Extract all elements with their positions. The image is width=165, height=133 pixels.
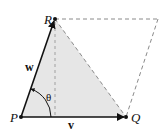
label-q: Q	[131, 110, 141, 125]
label-theta: θ	[46, 91, 51, 103]
dashed-edge-s-q	[126, 19, 158, 117]
label-r: R	[43, 12, 52, 27]
point-r-dot	[53, 17, 57, 21]
label-p: P	[9, 110, 18, 125]
vector-diagram: R P Q w v θ	[0, 0, 165, 133]
point-q-dot	[124, 115, 128, 119]
label-v: v	[68, 118, 74, 132]
label-w: w	[25, 60, 34, 74]
triangle-pqr	[21, 19, 126, 117]
point-p-dot	[19, 115, 23, 119]
